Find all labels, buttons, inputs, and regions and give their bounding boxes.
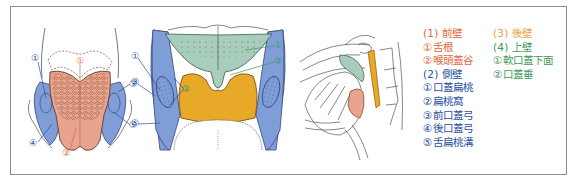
legend-column-right: (3) 後壁 (4) 上壁 ①軟口蓋下面 ②口蓋垂 bbox=[493, 27, 554, 41]
tongue-base-figure bbox=[28, 28, 131, 150]
oropharynx-front-figure bbox=[138, 25, 285, 150]
legend-anterior-item: ①舌根 bbox=[423, 41, 473, 55]
legend-anterior-heading: (1) 前壁 bbox=[423, 27, 473, 41]
figure2-label-5: ⑤ bbox=[131, 118, 139, 128]
legend-superior-item: ②口蓋垂 bbox=[493, 68, 554, 82]
legend-lateral-item: ③前口蓋弓 bbox=[423, 109, 473, 123]
figure2-label-2-center: ② bbox=[182, 84, 190, 94]
figure1-label-2: ② bbox=[62, 148, 70, 158]
figure2-label-2-right: ② bbox=[274, 56, 282, 66]
legend-lateral-item: ④後口蓋弓 bbox=[423, 122, 473, 136]
legend-posterior-heading: (3) 後壁 bbox=[493, 27, 554, 41]
figure1-label-1-left: ① bbox=[31, 53, 39, 63]
legend-column-left: (1) 前壁 ①舌根 ②喉頭蓋谷 (2) 側壁 ①口蓋扁桃 ②扁桃窩 ③前口蓋弓… bbox=[423, 27, 473, 41]
figure2-label-3: ③ bbox=[131, 77, 139, 87]
legend-lateral-item: ②扁桃窩 bbox=[423, 95, 473, 109]
figure2-label-1-left: ① bbox=[131, 51, 139, 61]
figure-tongue-base-illustration bbox=[0, 0, 576, 184]
legend-lateral-item: ①口蓋扁桃 bbox=[423, 81, 473, 95]
legend-superior-item: ①軟口蓋下面 bbox=[493, 54, 554, 68]
legend-anterior-item: ②喉頭蓋谷 bbox=[423, 54, 473, 68]
figure2-label-1-right: ① bbox=[274, 40, 282, 50]
figure1-label-1-center: ① bbox=[76, 56, 84, 66]
legend-lateral-heading: (2) 側壁 bbox=[423, 68, 473, 82]
legend-superior-heading: (4) 上壁 bbox=[493, 41, 554, 55]
figure1-label-4: ④ bbox=[29, 138, 37, 148]
sagittal-section-figure bbox=[300, 35, 403, 160]
legend-lateral-item: ⑤舌扁桃溝 bbox=[423, 136, 473, 150]
